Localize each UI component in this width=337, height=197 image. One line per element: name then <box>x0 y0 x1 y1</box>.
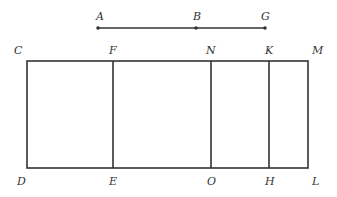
point-g <box>263 26 267 30</box>
point-a <box>96 26 100 30</box>
point-b <box>194 26 198 30</box>
rectangle-cmld <box>27 61 308 168</box>
bottom-labels: D E O H L <box>16 175 319 188</box>
label-e: E <box>108 175 117 188</box>
label-k: K <box>264 44 274 57</box>
label-f: F <box>108 44 117 57</box>
label-m: M <box>311 44 324 57</box>
label-g: G <box>261 10 270 23</box>
geometry-diagram: A B G C F N K M D E O H L <box>0 0 337 197</box>
label-l: L <box>311 175 319 188</box>
label-a: A <box>95 10 104 23</box>
label-o: O <box>207 175 216 188</box>
label-d: D <box>16 175 26 188</box>
top-labels: C F N K M <box>14 44 324 57</box>
label-h: H <box>264 175 275 188</box>
outer-rectangle <box>27 61 308 168</box>
label-n: N <box>205 44 216 57</box>
label-b: B <box>192 10 201 23</box>
label-c: C <box>14 44 23 57</box>
segment-agb: A B G <box>95 10 270 30</box>
